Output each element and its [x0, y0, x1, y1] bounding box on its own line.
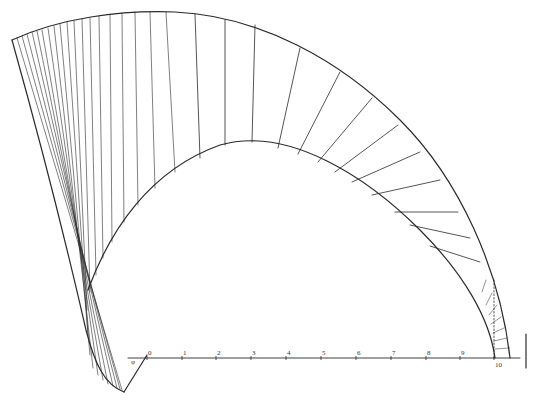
angle-label: φ — [131, 358, 135, 366]
axis-tick-label: 10 — [495, 361, 503, 369]
axis-tick-label: 2 — [217, 349, 221, 357]
left-envelope — [12, 40, 124, 392]
axis-tick-label: 0 — [148, 349, 152, 357]
axis-tick-label: 3 — [252, 349, 256, 357]
ruling-lines-right — [195, 14, 480, 262]
inner-arc — [88, 141, 495, 358]
axis-tick-label: 9 — [461, 349, 465, 357]
ruling-lines-left — [17, 12, 175, 390]
construction-diagram: 012345678910 φ — [0, 0, 541, 400]
vertex-line — [124, 355, 147, 392]
axis-tick-label: 7 — [392, 349, 396, 357]
axis-tick-label: 4 — [287, 349, 291, 357]
axis-tick-label: 8 — [427, 349, 431, 357]
axis-tick-label: 6 — [357, 349, 361, 357]
axis-tick-label: 1 — [183, 349, 187, 357]
axis-tick-label: 5 — [322, 349, 326, 357]
axis-ticks: 012345678910 — [147, 349, 503, 369]
ruling-lines-near-axis — [482, 280, 509, 349]
